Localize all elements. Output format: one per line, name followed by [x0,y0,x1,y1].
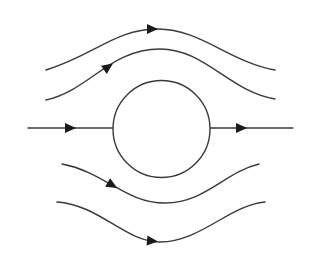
arrowhead-icon [147,236,159,247]
arrowhead-icon [147,24,158,34]
arrowhead-icon [105,178,120,192]
arrowhead-icon [65,123,76,133]
streamline-lower-outer [57,202,265,242]
arrowhead-icon [101,59,116,74]
circular-obstacle [113,81,210,178]
flow-around-cylinder-diagram [0,0,315,266]
arrowhead-icon [236,123,247,133]
